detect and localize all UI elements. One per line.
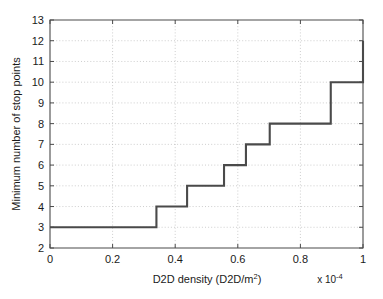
x-tick-label: 0.6 <box>230 253 245 265</box>
y-tick-label: 11 <box>33 55 44 67</box>
y-tick-label: 4 <box>38 201 44 213</box>
y-tick-label: 3 <box>38 221 44 233</box>
x-axis-title-group: D2D density (D2D/m2) <box>153 272 262 285</box>
tick-marks-group <box>50 20 363 248</box>
y-tick-label: 10 <box>32 76 44 88</box>
x-axis-multiplier-group: x 10-4 <box>317 272 343 285</box>
plot-frame <box>50 20 363 248</box>
y-axis-title: Minimum number of stop points <box>10 57 22 211</box>
y-axis-title-group: Minimum number of stop points <box>10 57 22 211</box>
x-axis-title: D2D density (D2D/m2) <box>153 272 262 285</box>
x-tick-label: 0.8 <box>293 253 308 265</box>
gridlines-group <box>50 20 363 248</box>
y-tick-label: 2 <box>38 242 44 254</box>
x-tick-label: 0.4 <box>168 253 183 265</box>
y-tick-label: 9 <box>38 97 44 109</box>
x-tick-label: 0 <box>47 253 53 265</box>
step-plot-chart: 2345678910111213 00.20.40.60.81 Minimum … <box>0 0 383 299</box>
x-axis-multiplier: x 10-4 <box>317 272 343 285</box>
data-series-line <box>50 41 363 228</box>
x-tick-label: 1 <box>360 253 366 265</box>
y-tick-label: 5 <box>38 180 44 192</box>
x-tick-labels-group: 00.20.40.60.81 <box>47 253 366 265</box>
data-series-group <box>50 41 363 228</box>
y-tick-label: 12 <box>32 35 44 47</box>
figure-canvas: 2345678910111213 00.20.40.60.81 Minimum … <box>0 0 383 299</box>
y-tick-labels-group: 2345678910111213 <box>32 14 44 254</box>
y-tick-label: 8 <box>38 118 44 130</box>
y-tick-label: 6 <box>38 159 44 171</box>
y-tick-label: 13 <box>32 14 44 26</box>
axis-frame-path <box>50 20 363 248</box>
x-tick-label: 0.2 <box>105 253 120 265</box>
y-tick-label: 7 <box>38 138 44 150</box>
